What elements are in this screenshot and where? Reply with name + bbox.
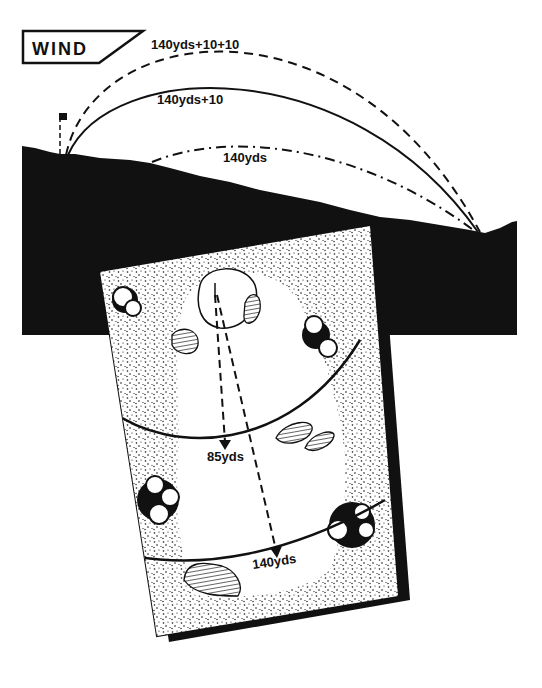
flag-icon [59,113,67,154]
bunker [172,329,198,353]
label-wind-plus-10: 140yds+10 [157,92,223,107]
label-no-wind: 140yds [223,150,267,165]
label-wind-plus-20: 140yds+10+10 [151,37,239,52]
wind-sign: WIND [23,31,143,63]
label-85yds: 85yds [207,449,244,464]
hole-map-card: 85yds 140yds [90,220,410,650]
wind-label: WIND [32,39,88,59]
golf-wind-diagram: WIND 140yds+10+10 140yds+10 140yds [0,0,542,688]
